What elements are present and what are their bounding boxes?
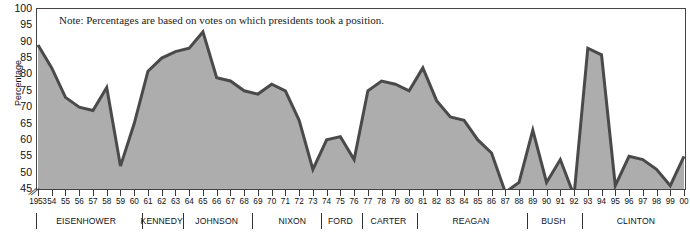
x-axis-tick — [437, 190, 438, 196]
president-term-separator — [321, 213, 322, 229]
x-axis-tick — [272, 190, 273, 196]
x-axis-tick — [175, 190, 176, 196]
x-axis-tick-label: 66 — [212, 197, 221, 206]
y-axis-ticks: 1009590858075706560555045 — [0, 0, 32, 195]
x-axis-tick — [450, 190, 451, 196]
x-axis-tick-label: 70 — [267, 197, 276, 206]
x-axis-tick — [382, 190, 383, 196]
president-label-johnson: JOHNSON — [195, 215, 238, 227]
president-term-separator — [417, 213, 418, 229]
x-axis-tick — [134, 190, 135, 196]
x-axis-tick — [217, 190, 218, 196]
y-axis-tick-label: 45 — [4, 183, 32, 193]
x-axis-tick — [492, 190, 493, 196]
x-axis-tick-label: 76 — [350, 197, 359, 206]
x-axis-tick — [602, 190, 603, 196]
x-axis-tick — [519, 190, 520, 196]
president-term-separator — [183, 213, 184, 229]
y-axis-tick-label: 75 — [4, 85, 32, 95]
x-axis-tick-label: 64 — [185, 197, 194, 206]
x-axis-tick-label: 75 — [336, 197, 345, 206]
x-axis-tick-label: 73 — [308, 197, 317, 206]
x-axis-tick-label: 55 — [61, 197, 70, 206]
x-axis-tick — [395, 190, 396, 196]
x-axis-tick — [203, 190, 204, 196]
x-axis-tick — [79, 190, 80, 196]
area-series — [37, 9, 685, 189]
president-term-band: EISENHOWERKENNEDYJOHNSONNIXONFORDCARTERR… — [36, 212, 686, 232]
x-axis-tick — [65, 190, 66, 196]
president-term-separator — [362, 213, 363, 229]
x-axis-tick-label: 93 — [583, 197, 592, 206]
x-axis-tick — [615, 190, 616, 196]
x-axis-tick-label: 84 — [460, 197, 469, 206]
x-axis-tick — [354, 190, 355, 196]
x-axis-tick — [148, 190, 149, 196]
president-term-separator — [582, 213, 583, 229]
plot-area: Note: Percentages are based on votes on … — [36, 8, 686, 190]
x-axis-tick-label: 97 — [638, 197, 647, 206]
x-axis-tick-label: 91 — [556, 197, 565, 206]
x-axis-tick-label: 1953 — [29, 197, 46, 206]
y-axis-tick-label: 90 — [4, 36, 32, 46]
x-axis-tick-label: 82 — [432, 197, 441, 206]
x-axis-tick-label: 71 — [281, 197, 290, 206]
x-axis-tick — [533, 190, 534, 196]
x-axis-tick — [285, 190, 286, 196]
y-axis-tick-label: 60 — [4, 134, 32, 144]
president-label-carter: CARTER — [371, 215, 407, 227]
x-axis-tick — [107, 190, 108, 196]
president-label-bush: BUSH — [541, 215, 565, 227]
x-axis-tick-label: 83 — [446, 197, 455, 206]
x-axis-tick-label: 63 — [171, 197, 180, 206]
y-axis-tick-label: 95 — [4, 19, 32, 29]
x-axis-tick — [38, 190, 39, 196]
president-label-ford: FORD — [328, 215, 353, 227]
x-axis-tick-label: 54 — [47, 197, 56, 206]
x-axis-tick-label: 62 — [157, 197, 166, 206]
axis-break-icon: ∕∕ — [31, 188, 38, 197]
chart-note: Note: Percentages are based on votes on … — [59, 14, 384, 26]
x-axis-tick-label: 96 — [624, 197, 633, 206]
x-axis-tick — [629, 190, 630, 196]
x-axis-tick-label: 60 — [130, 197, 139, 206]
x-axis-tick-label: 94 — [597, 197, 606, 206]
x-axis-tick — [313, 190, 314, 196]
x-axis-tick-label: 57 — [88, 197, 97, 206]
x-axis-tick — [670, 190, 671, 196]
x-axis-tick-label: 85 — [473, 197, 482, 206]
x-axis-tick-label: 95 — [611, 197, 620, 206]
x-axis-tick — [643, 190, 644, 196]
president-term-separator — [36, 213, 37, 229]
x-axis-tick — [505, 190, 506, 196]
x-axis-tick-label: 59 — [116, 197, 125, 206]
y-axis-tick-label: 80 — [4, 68, 32, 78]
x-axis-tick-label: 74 — [322, 197, 331, 206]
x-axis-tick — [299, 190, 300, 196]
x-axis-tick — [230, 190, 231, 196]
x-axis-tick-label: 98 — [652, 197, 661, 206]
x-axis-tick — [657, 190, 658, 196]
president-label-reagan: REAGAN — [453, 215, 490, 227]
x-axis-tick — [258, 190, 259, 196]
x-axis-tick-label: 69 — [253, 197, 262, 206]
chart-figure: Percentage 1009590858075706560555045 Not… — [0, 0, 690, 234]
y-axis-tick-label: 85 — [4, 52, 32, 62]
x-axis-tick — [478, 190, 479, 196]
y-axis-tick-label: 50 — [4, 167, 32, 177]
x-axis-tick-label: 80 — [405, 197, 414, 206]
x-axis-tick — [368, 190, 369, 196]
president-label-nixon: NIXON — [278, 215, 306, 227]
y-axis-tick-label: 100 — [4, 3, 32, 13]
president-term-separator — [527, 213, 528, 229]
x-axis-tick — [574, 190, 575, 196]
x-axis-tick-label: 65 — [198, 197, 207, 206]
president-term-separator — [252, 213, 253, 229]
x-axis-tick — [244, 190, 245, 196]
x-axis-tick-label: 92 — [569, 197, 578, 206]
x-axis-tick-label: 89 — [528, 197, 537, 206]
x-axis-tick — [162, 190, 163, 196]
x-axis-tick — [684, 190, 685, 196]
y-axis-tick-label: 70 — [4, 101, 32, 111]
x-axis-tick — [560, 190, 561, 196]
